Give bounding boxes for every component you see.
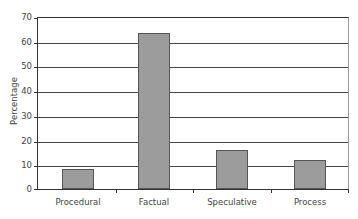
x-label-procedural: Procedural: [39, 197, 117, 207]
y-tick-mark: [34, 142, 38, 143]
bar-factual: [138, 33, 170, 189]
bar-procedural: [62, 169, 94, 189]
y-tick-30: 30: [16, 111, 32, 121]
y-tick-70: 70: [16, 12, 32, 22]
gridline-20: [38, 142, 348, 143]
gridline-50: [38, 67, 348, 68]
y-tick-mark: [34, 166, 38, 167]
x-label-factual: Factual: [115, 197, 193, 207]
bar-chart: Percentage 70 60 50 40 30 20 10 0: [0, 0, 358, 219]
bar-process: [294, 160, 326, 189]
gridline-40: [38, 92, 348, 93]
y-tick-mark: [34, 92, 38, 93]
y-tick-50: 50: [16, 61, 32, 71]
gridline-60: [38, 43, 348, 44]
x-label-speculative: Speculative: [193, 197, 271, 207]
x-tick-mark: [271, 189, 272, 193]
y-axis-label: Percentage: [9, 71, 19, 131]
x-label-process: Process: [271, 197, 349, 207]
y-tick-20: 20: [16, 136, 32, 146]
y-tick-10: 10: [16, 160, 32, 170]
y-tick-40: 40: [16, 86, 32, 96]
plot-area: 70 60 50 40 30 20 10 0 Procedural Factua…: [37, 17, 349, 190]
bar-speculative: [216, 150, 248, 189]
y-tick-mark: [34, 43, 38, 44]
y-tick-mark: [34, 67, 38, 68]
x-tick-mark: [193, 189, 194, 193]
x-tick-mark: [116, 189, 117, 193]
y-tick-mark: [34, 189, 38, 190]
y-tick-0: 0: [16, 184, 32, 194]
gridline-30: [38, 117, 348, 118]
y-tick-60: 60: [16, 37, 32, 47]
x-tick-mark: [348, 189, 349, 193]
y-tick-mark: [34, 117, 38, 118]
y-tick-mark: [34, 18, 38, 19]
